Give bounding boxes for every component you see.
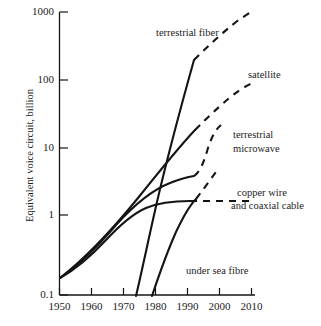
series-line-terrestrial-microwave-dashed — [194, 125, 221, 176]
y-tick-label-100: 100 — [12, 73, 54, 85]
series-label-under-sea-fibre: under sea fibre — [186, 265, 248, 276]
chart-plot-area — [0, 0, 321, 326]
series-line-satellite-solid — [60, 130, 195, 278]
y-tick-label-1: 1 — [12, 208, 54, 220]
series-label-copper-wire-line1: copper wire — [237, 187, 287, 199]
x-axis-ticks — [60, 288, 252, 295]
series-line-under-sea-fibre-dashed — [196, 172, 216, 199]
series-label-copper-wire-line2: and coaxial cable — [231, 200, 304, 212]
series-line-terrestrial-microwave-solid — [60, 176, 194, 278]
y-tick-label-0-1: 0.1 — [12, 288, 54, 300]
x-tick-label-2010: 2010 — [231, 300, 272, 312]
series-line-under-sea-fibre-solid — [152, 199, 196, 296]
chart-figure: Equivalent voice circuit, billion 1000 1… — [0, 0, 321, 326]
series-label-terrestrial-fiber: terrestrial fiber — [156, 27, 219, 38]
series-line-satellite-dashed — [195, 83, 253, 130]
y-tick-label-1000: 1000 — [12, 5, 54, 17]
series-label-satellite: satellite — [248, 69, 281, 80]
series-label-terrestrial-microwave-line2: microwave — [233, 143, 280, 155]
y-tick-label-10: 10 — [12, 141, 54, 153]
y-axis-ticks — [60, 12, 69, 295]
series-label-terrestrial-microwave-line1: terrestrial — [233, 129, 273, 141]
